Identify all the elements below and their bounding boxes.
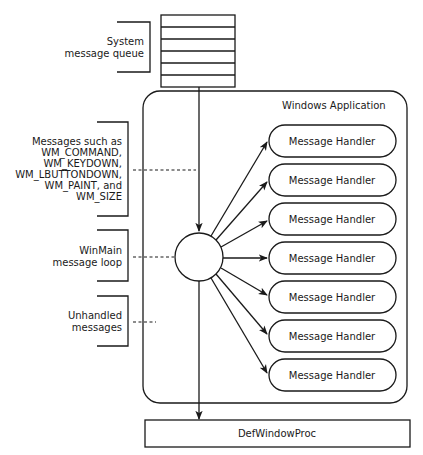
message-handler: Message Handler (269, 359, 396, 391)
defwindowproc-box: DefWindowProc (145, 420, 410, 447)
handler-label: Message Handler (289, 175, 376, 186)
handler-label: Message Handler (289, 253, 376, 264)
defwindowproc-label: DefWindowProc (238, 428, 316, 439)
loop-label-line: message loop (53, 257, 122, 268)
handler-label: Message Handler (289, 370, 376, 381)
loop-label-line: WinMain (79, 245, 122, 256)
queue-label-line-1: System (107, 36, 144, 47)
messages-label-line: Messages such as (32, 136, 122, 147)
messages-label-line: WM_SIZE (76, 191, 122, 203)
handler-label: Message Handler (289, 331, 376, 342)
handler-label: Message Handler (289, 136, 376, 147)
handler-list: Message Handler Message Handler Message … (269, 125, 396, 391)
system-message-queue (161, 15, 235, 87)
message-handler: Message Handler (269, 281, 396, 313)
message-handler: Message Handler (269, 164, 396, 196)
queue-label-line-2: message queue (65, 48, 144, 59)
message-handler: Message Handler (269, 242, 396, 274)
queue-annotation: System message queue (65, 22, 150, 72)
unhandled-label-line: Unhandled (68, 310, 122, 321)
message-flow-diagram: System message queue Windows Application… (0, 0, 423, 455)
app-title: Windows Application (282, 100, 386, 111)
message-handler: Message Handler (269, 125, 396, 157)
handler-label: Message Handler (289, 214, 376, 225)
message-loop-circle (175, 233, 223, 281)
message-handler: Message Handler (269, 203, 396, 235)
message-handler: Message Handler (269, 320, 396, 352)
handler-label: Message Handler (289, 292, 376, 303)
unhandled-label-line: messages (72, 322, 122, 333)
